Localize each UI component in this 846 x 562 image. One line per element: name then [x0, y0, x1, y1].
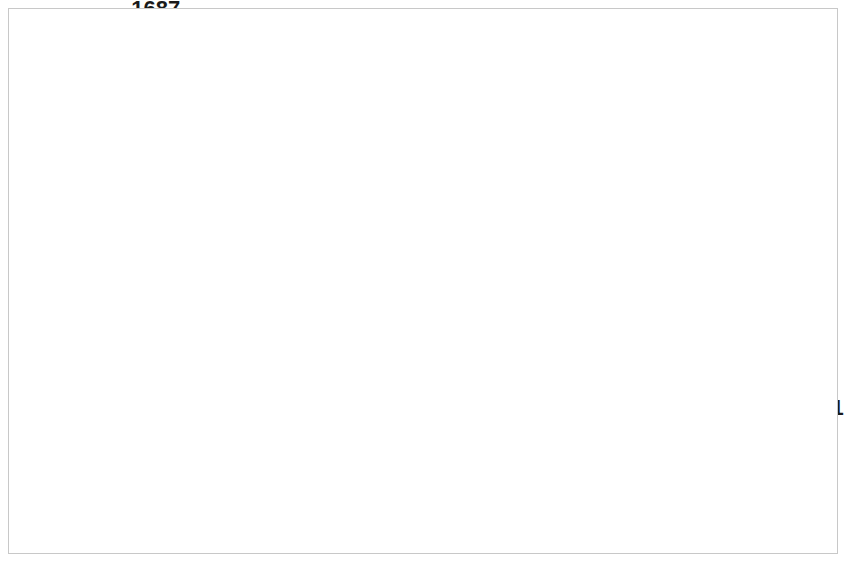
chart-border-frame [8, 8, 838, 554]
chart-container: 3005007009001100130015001700 11221687939… [0, 0, 846, 562]
